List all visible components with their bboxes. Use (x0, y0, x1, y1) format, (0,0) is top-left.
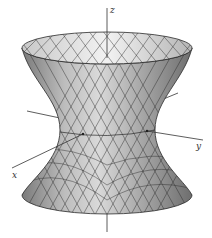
z-axis-label: z (109, 5, 115, 15)
y-intercept-point (146, 130, 149, 133)
x-axis-label: x (12, 170, 17, 180)
surface-body (22, 48, 192, 214)
hyperboloid-surface (0, 30, 212, 220)
y-axis-label: y (195, 141, 202, 151)
x-axis-back (27, 111, 60, 118)
hyperboloid-figure: z x y (0, 0, 212, 238)
x-intercept-point (82, 133, 85, 136)
